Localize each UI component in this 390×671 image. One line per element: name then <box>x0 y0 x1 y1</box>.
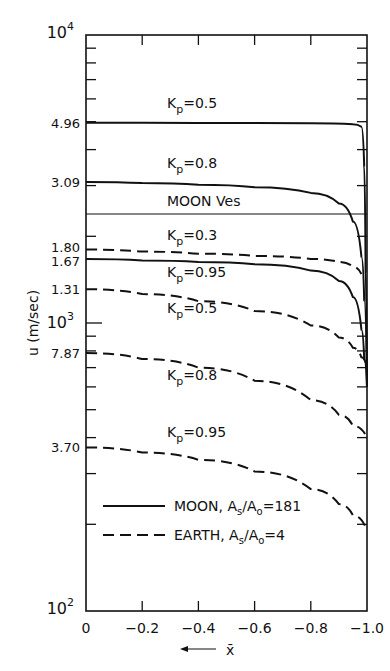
y-tick-label: 3.70 <box>51 440 80 455</box>
kp-label: Kp=0.5 <box>167 300 217 321</box>
kp-label: Kp=0.8 <box>167 367 217 388</box>
x-axis-label: x̄ <box>180 642 234 658</box>
y-tick-label: 102 <box>47 596 74 618</box>
curve-earth-kp-0-95 <box>86 447 367 530</box>
x-tick-label: −0.4 <box>181 620 215 636</box>
y-tick-label: 7.87 <box>51 346 80 361</box>
chart: 1044.963.091.801.671.311037.873.70102 0−… <box>0 0 390 671</box>
kp-label: Kp=0.95 <box>167 264 226 285</box>
kp-label: Kp=0.5 <box>167 95 217 116</box>
curve-earth-kp-0-8 <box>86 353 367 438</box>
y-tick-label: 4.96 <box>51 116 80 131</box>
x-tick-label: −0.8 <box>294 620 328 636</box>
legend-moon-label: MOON, As/Ao=181 <box>174 498 301 517</box>
y-tick-label: 1.67 <box>51 254 80 269</box>
y-tick-labels: 1044.963.091.801.671.311037.873.70102 <box>47 20 80 618</box>
x-tick-label: −0.2 <box>125 620 159 636</box>
curve-moon-kp-0-95 <box>86 259 367 387</box>
legend-earth-label: EARTH, As/Ao=4 <box>174 527 285 546</box>
plot-frame <box>86 35 367 611</box>
data-curves <box>86 123 367 531</box>
y-tick-label: 3.09 <box>51 175 80 190</box>
axis-ticks <box>86 35 367 611</box>
y-tick-label: 104 <box>47 20 74 42</box>
x-axis-symbol: x̄ <box>226 642 234 658</box>
x-tick-label: 0 <box>82 620 91 636</box>
x-tick-label: −0.6 <box>238 620 272 636</box>
arrowhead-icon <box>180 646 188 652</box>
kp-label: Kp=0.95 <box>167 424 226 445</box>
curve-annotations: Kp=0.5Kp=0.8MOON VesKp=0.3Kp=0.95Kp=0.5K… <box>167 95 240 445</box>
y-tick-label: 1.31 <box>51 282 80 297</box>
y-tick-label: 103 <box>47 310 74 332</box>
x-tick-label: −1.0 <box>350 620 384 636</box>
y-axis-label: u (m/sec) <box>25 290 41 356</box>
kp-label: Kp=0.3 <box>167 227 217 248</box>
kp-label: Kp=0.8 <box>167 155 217 176</box>
moon-ves-label: MOON Ves <box>167 193 240 209</box>
x-tick-labels: 0−0.2−0.4−0.6−0.8−1.0 <box>82 620 384 636</box>
legend: MOON, As/Ao=181 EARTH, As/Ao=4 <box>103 498 301 546</box>
